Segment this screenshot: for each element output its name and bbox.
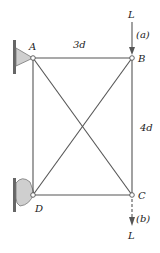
truss-members — [33, 58, 132, 195]
joint-b — [130, 56, 135, 61]
joint-d — [31, 193, 36, 198]
node-label-d: D — [34, 203, 43, 214]
load-b-case: (b) — [136, 213, 150, 224]
wall-d — [13, 178, 16, 212]
node-label-a: A — [28, 41, 36, 52]
load-b-arrowhead-icon — [129, 217, 135, 226]
dimension-horizontal: 3d — [73, 39, 86, 50]
dimension-vertical: 4d — [139, 122, 153, 133]
truss-diagram: A B C D 3d 4d L (a) (b) L — [0, 0, 160, 253]
pin-support-d — [16, 179, 34, 206]
joint-c — [130, 193, 135, 198]
joint-a — [31, 56, 36, 61]
node-label-c: C — [138, 190, 146, 201]
wall-a — [13, 40, 16, 74]
load-a-case: (a) — [136, 29, 150, 40]
load-a-label: L — [127, 9, 135, 20]
load-b-label: L — [127, 230, 135, 241]
node-label-b: B — [137, 53, 145, 64]
load-a-arrowhead-icon — [129, 47, 135, 55]
